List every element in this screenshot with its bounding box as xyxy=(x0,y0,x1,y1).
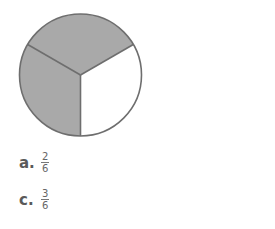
answer-option-c[interactable]: c. 3 6 xyxy=(19,189,49,211)
option-label: a. xyxy=(19,154,39,172)
denominator: 6 xyxy=(42,163,48,174)
numerator: 2 xyxy=(41,152,49,163)
numerator: 3 xyxy=(41,189,49,200)
denominator: 6 xyxy=(42,200,48,211)
fraction: 3 6 xyxy=(41,189,49,211)
option-label: c. xyxy=(19,191,39,209)
fraction: 2 6 xyxy=(41,152,49,174)
answer-option-a[interactable]: a. 2 6 xyxy=(19,152,49,174)
fraction-circle-diagram xyxy=(0,0,275,150)
